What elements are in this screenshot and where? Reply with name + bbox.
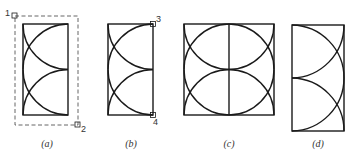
panel-b (108, 22, 156, 118)
panel-d (292, 25, 344, 131)
point-label-2: 2 (81, 124, 86, 134)
point-label-4: 4 (153, 117, 158, 127)
grip-point-1[interactable] (12, 13, 17, 18)
grip-point-2[interactable] (75, 122, 80, 127)
caption-d: (d) (312, 138, 324, 149)
point-label-1: 1 (5, 8, 10, 18)
point-label-3: 3 (156, 14, 161, 24)
caption-a: (a) (41, 138, 53, 149)
figure-canvas (0, 0, 353, 160)
caption-c: (c) (223, 138, 234, 149)
caption-b: (b) (125, 138, 137, 149)
panel-c (184, 24, 274, 115)
panel-a (12, 13, 80, 127)
